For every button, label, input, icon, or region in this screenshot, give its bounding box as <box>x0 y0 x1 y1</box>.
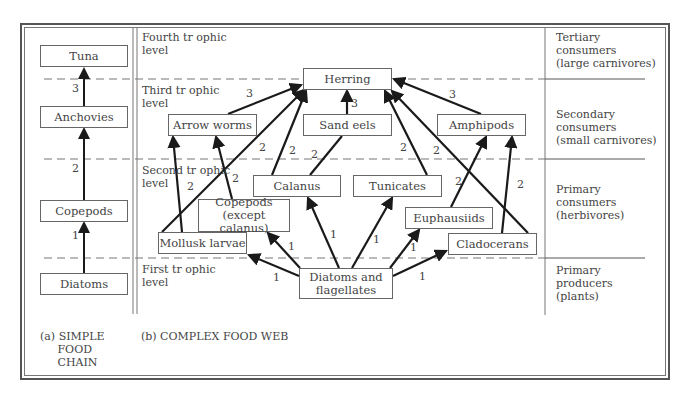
trophic-level-4-label: Fourth tr ophic level <box>142 31 227 57</box>
link-label: 2 <box>455 175 462 188</box>
category-primary-consumers: Primary consumers (herbivores) <box>556 183 624 222</box>
link-label: 1 <box>330 228 337 241</box>
node-calanus: Calanus <box>253 175 341 197</box>
node-diatoms-flagellates: Diatoms and flagellates <box>299 268 393 299</box>
node-copepods-except-calanus: Copepods (except calanus) <box>198 199 290 232</box>
chain-node-anchovies: Anchovies <box>40 106 128 128</box>
node-cladocerans: Cladocerans <box>448 233 537 255</box>
link-label: 1 <box>419 270 426 283</box>
link-label: 1 <box>288 240 295 253</box>
link-label: 2 <box>289 144 296 157</box>
node-arrow-worms: Arrow worms <box>168 114 257 136</box>
node-tunicates: Tunicates <box>353 175 442 197</box>
caption-complex-food-web: (b) COMPLEX FOOD WEB <box>141 330 288 343</box>
node-amphipods: Amphipods <box>437 114 526 136</box>
link-label: 2 <box>311 148 318 161</box>
link-label: 1 <box>373 233 380 246</box>
caption-simple-food-chain: (a) SIMPLE FOOD CHAIN <box>40 330 105 369</box>
link-label: 2 <box>232 172 239 185</box>
chain-node-copepods: Copepods <box>40 200 128 222</box>
category-producers: Primary producers (plants) <box>556 264 613 303</box>
node-herring: Herring <box>303 68 392 90</box>
link-label: 1 <box>273 271 280 284</box>
chain-node-tuna: Tuna <box>40 45 128 67</box>
chain-node-diatoms: Diatoms <box>40 273 128 295</box>
link-label: 2 <box>187 180 194 193</box>
link-label: 2 <box>517 178 524 191</box>
chain-label-1: 1 <box>72 229 79 242</box>
link-label: 3 <box>449 88 456 101</box>
node-euphausiids: Euphausiids <box>405 207 493 229</box>
link-label: 2 <box>433 144 440 157</box>
trophic-level-3-label: Third tr ophic level <box>142 84 219 110</box>
link-label: 3 <box>351 97 358 110</box>
category-secondary: Secondary consumers (small carnivores) <box>556 108 657 147</box>
category-dividers <box>545 79 645 258</box>
link-label: 3 <box>246 87 253 100</box>
chain-label-2: 2 <box>72 162 79 175</box>
category-tertiary: Tertiary consumers (large carnivores) <box>556 31 656 70</box>
link-label: 2 <box>400 141 407 154</box>
link-label: 1 <box>410 241 417 254</box>
trophic-level-1-label: First tr ophic level <box>142 263 216 289</box>
node-sand-eels: Sand eels <box>303 114 392 136</box>
chain-label-3: 3 <box>72 82 79 95</box>
link-label: 2 <box>259 141 266 154</box>
node-mollusk-larvae: Mollusk larvae <box>158 232 247 254</box>
